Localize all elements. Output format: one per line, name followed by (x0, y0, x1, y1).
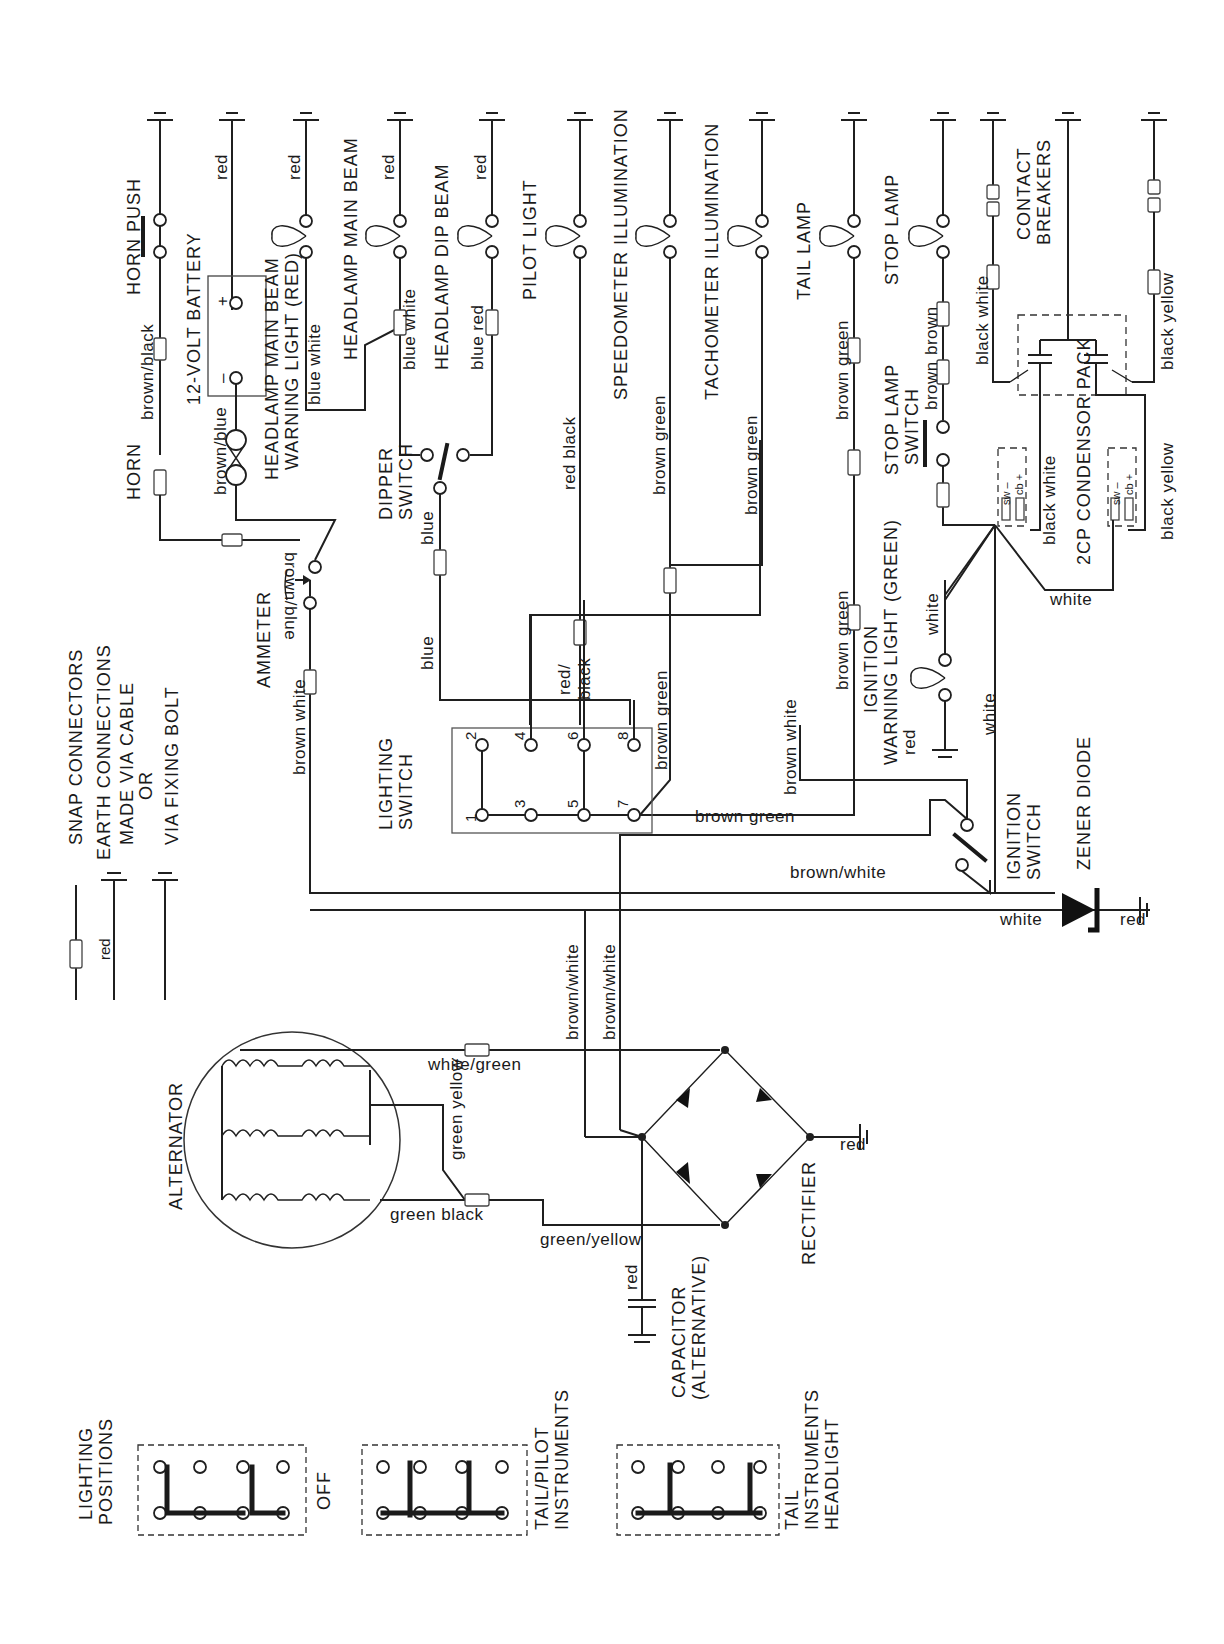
label-contact-2: BREAKERS (1034, 139, 1054, 245)
wire-green-yellow-2: green/yellow (540, 1230, 642, 1249)
label-ign-sw-2: SWITCH (1024, 803, 1044, 880)
wire-red-hlw: red (285, 154, 304, 180)
label-hl-warn-1: HEADLAMP MAIN BEAM (262, 257, 282, 480)
labels: SNAP CONNECTORS EARTH CONNECTIONS MADE V… (66, 108, 1177, 1530)
term-5: 5 (564, 800, 581, 808)
label-stop: STOP LAMP (882, 174, 902, 285)
lighting-switch (452, 600, 652, 833)
wire-bg-lsw: brown green (652, 670, 671, 770)
wire-blue-1: blue (418, 511, 437, 545)
label-contact-1: CONTACT (1014, 147, 1034, 240)
wire-bg-tacho: brown green (742, 415, 761, 515)
wire-by-2: black yellow (1158, 442, 1177, 540)
wire-brown-1: brown (922, 306, 941, 355)
term-7: 7 (614, 800, 631, 808)
label-rectifier: RECTIFIER (799, 1161, 819, 1265)
wire-brw-amm: brown white (290, 679, 309, 775)
label-hl-main: HEADLAMP MAIN BEAM (341, 137, 361, 360)
term-2: 2 (462, 732, 479, 740)
wire-red-slash: red/ (555, 664, 574, 695)
wire-bg-tail-2: brown green (833, 590, 852, 690)
wire-white-zener: white (999, 910, 1042, 929)
wire-white-3: white (1049, 590, 1092, 609)
label-tail: TAIL LAMP (794, 201, 814, 300)
lp-tail-pilot-2: INSTRUMENTS (552, 1389, 572, 1530)
wire-brw-ign: brown white (781, 699, 800, 795)
legend-bolt: VIA FIXING BOLT (162, 686, 182, 845)
wire-red-zener: red (1120, 910, 1146, 929)
coil-1-sw: sw – (1000, 482, 1012, 506)
lp-thi-1: TAIL (782, 1489, 802, 1530)
coil-2-sw: sw – (1110, 482, 1122, 506)
label-dipper-2: SWITCH (396, 443, 416, 520)
coil-1-cb: cb + (1013, 474, 1025, 495)
lp-off: OFF (314, 1471, 334, 1510)
wire-bw-1: black white (973, 275, 992, 365)
term-8: 8 (614, 732, 631, 740)
wire-bg-tail: brown green (833, 320, 852, 420)
wire-green-yellow: green yellow (447, 1058, 466, 1160)
label-lighting-sw-1: LIGHTING (376, 737, 396, 830)
label-hl-warn-2: WARNING LIGHT (RED) (282, 252, 302, 470)
term-1: 1 (462, 814, 479, 822)
wire-blue-red: blue red (468, 305, 487, 370)
lp-tail-pilot-1: TAIL/PILOT (532, 1426, 552, 1530)
label-horn: HORN (124, 443, 144, 500)
label-battery: 12-VOLT BATTERY (184, 232, 204, 405)
wire-red-black: red black (560, 417, 579, 490)
label-hl-dip: HEADLAMP DIP BEAM (432, 164, 452, 370)
label-speedo: SPEEDOMETER ILLUMINATION (611, 108, 631, 400)
label-ign-warn-1: IGNITION (861, 625, 881, 713)
wire-brown-blue: brown/blue (211, 407, 230, 495)
lp-thi-3: HEADLIGHT (822, 1418, 842, 1530)
wire-brown-2: brown (922, 361, 941, 410)
coil-2-cb: cb + (1123, 474, 1135, 495)
wire-blue-white-2: blue white (400, 288, 419, 370)
label-pilot: PILOT LIGHT (520, 179, 540, 300)
term-4: 4 (511, 732, 528, 740)
label-capacitor-1: CAPACITOR (669, 1286, 689, 1398)
legend-red: red (96, 938, 113, 960)
legend-or: OR (136, 771, 156, 800)
wire-white-1: white (923, 593, 942, 636)
label-horn-push: HORN PUSH (124, 178, 144, 295)
wiring-diagram: SNAP CONNECTORS EARTH CONNECTIONS MADE V… (0, 0, 1224, 1644)
label-stop-sw-1: STOP LAMP (882, 364, 902, 475)
term-6: 6 (564, 732, 581, 740)
wire-bg-speedo: brown green (650, 395, 669, 495)
label-alternator: ALTERNATOR (166, 1082, 186, 1210)
lp-thi-2: INSTRUMENTS (802, 1389, 822, 1530)
label-stop-sw-2: SWITCH (902, 388, 922, 465)
wire-blue-white-1: blue white (305, 323, 324, 405)
label-ammeter: AMMETER (254, 591, 274, 688)
wire-red-hlm: red (379, 154, 398, 180)
legend-snap: SNAP CONNECTORS (66, 649, 86, 845)
wire-blue-2: blue (418, 636, 437, 670)
lp-title-2: POSITIONS (96, 1418, 116, 1525)
lp-title-1: LIGHTING (76, 1427, 96, 1520)
term-3: 3 (511, 800, 528, 808)
label-lighting-sw-2: SWITCH (396, 753, 416, 830)
wire-white-green: white/green (427, 1055, 521, 1074)
wire-white-2: white (980, 693, 999, 736)
legend-earth-1: EARTH CONNECTIONS (94, 644, 114, 860)
label-tacho: TACHOMETER ILLUMINATION (702, 123, 722, 400)
wire-red-rect: red (840, 1135, 866, 1154)
battery-neg: – (213, 373, 232, 383)
wire-green-black: green black (390, 1205, 483, 1224)
legend-earth-2: MADE VIA CABLE (117, 682, 137, 845)
wire-brown-black: brown/black (138, 324, 157, 420)
wire-brw-v1: brown/white (563, 944, 582, 1040)
wire-red-cap: red (622, 1264, 641, 1290)
wire-by-1: black yellow (1158, 272, 1177, 370)
label-ign-warn-2: WARNING LIGHT (GREEN) (881, 519, 901, 765)
wire-black: black (575, 658, 594, 700)
wire-bg-horiz: brown green (695, 807, 795, 826)
legend (70, 873, 178, 1000)
wire-brown-blue-2: brown/blue (281, 552, 300, 640)
label-zener: ZENER DIODE (1074, 736, 1094, 870)
wire-red-batt: red (212, 154, 231, 180)
label-capacitor-2: (ALTERNATIVE) (689, 1255, 709, 1400)
wire-red-hld: red (471, 154, 490, 180)
ignition-switch (620, 725, 995, 1130)
